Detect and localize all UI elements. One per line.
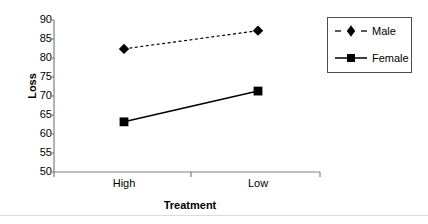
interaction-plot-figure: Loss 505560657075808590 HighLow Treatmen… — [0, 0, 428, 224]
square-marker-icon — [254, 87, 263, 96]
series-line-male — [124, 31, 258, 49]
diamond-marker-icon — [347, 25, 355, 37]
diamond-marker-icon — [119, 44, 129, 54]
series-line-female — [124, 91, 258, 122]
legend-label-female: Female — [372, 52, 409, 64]
legend-item-female[interactable]: Female — [328, 49, 411, 67]
legend-swatch-male — [334, 22, 368, 40]
legend-label-male: Male — [372, 25, 396, 37]
square-marker-icon — [347, 54, 355, 62]
bottom-divider — [0, 215, 428, 216]
diamond-marker-icon — [253, 25, 263, 35]
square-marker-icon — [120, 117, 129, 126]
legend-swatch-female — [334, 49, 368, 67]
legend-item-male[interactable]: Male — [328, 22, 411, 40]
legend: Male Female — [327, 17, 412, 73]
